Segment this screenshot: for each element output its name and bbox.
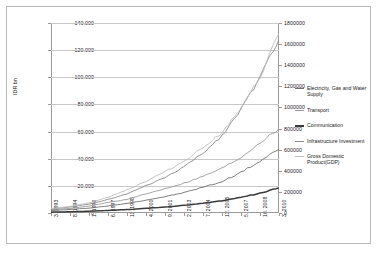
x-axis-tick xyxy=(146,213,147,216)
chart-legend: Electricity, Gas and Water SupplyTranspo… xyxy=(295,85,375,175)
x-axis-tick xyxy=(127,213,128,216)
x-axis-tick xyxy=(184,213,185,216)
right-y-axis-tick xyxy=(279,129,282,130)
x-axis-tick xyxy=(203,213,204,216)
series-line xyxy=(51,34,279,209)
legend-item[interactable]: Gross Domestic Product(GDP) xyxy=(295,153,375,166)
legend-label: Gross Domestic Product(GDP) xyxy=(307,153,375,166)
right-y-axis-tick xyxy=(279,171,282,172)
x-axis-tick xyxy=(165,213,166,216)
series-line xyxy=(51,129,279,210)
right-y-axis-tick xyxy=(279,23,282,24)
x-axis-tick-label: 3. 2010 xyxy=(281,200,287,217)
x-axis-tick xyxy=(260,213,261,216)
right-y-axis-tick-label: 200000 xyxy=(284,189,302,195)
legend-item[interactable]: Transport xyxy=(295,107,375,113)
legend-swatch-icon xyxy=(295,156,304,157)
legend-swatch-icon xyxy=(295,141,304,142)
series-line xyxy=(51,39,279,209)
chart-frame: IDR bn 020.00040.00060.00080.000100.0001… xyxy=(6,6,371,244)
right-y-axis-tick-label: 1600000 xyxy=(284,41,305,47)
legend-item[interactable]: Communication xyxy=(295,122,375,128)
x-axis-tick xyxy=(241,213,242,216)
right-y-axis-tick xyxy=(279,192,282,193)
legend-label: Infrastructure Investment xyxy=(307,138,364,144)
y-axis-title: IDR bn xyxy=(12,78,18,95)
plot-area xyxy=(51,23,279,213)
right-y-axis-tick xyxy=(279,86,282,87)
series-line xyxy=(51,149,279,210)
legend-swatch-icon xyxy=(295,88,304,89)
series-lines xyxy=(51,23,279,213)
legend-swatch-icon xyxy=(295,125,304,127)
x-axis-tick xyxy=(70,213,71,216)
x-axis-tick xyxy=(108,213,109,216)
right-y-axis-tick xyxy=(279,44,282,45)
legend-label: Transport xyxy=(307,107,329,113)
chart-screenshot: IDR bn 020.00040.00060.00080.000100.0001… xyxy=(0,0,385,256)
right-y-axis-tick-label: 1400000 xyxy=(284,62,305,68)
legend-item[interactable]: Electricity, Gas and Water Supply xyxy=(295,85,375,98)
x-axis-tick xyxy=(279,213,280,216)
legend-label: Electricity, Gas and Water Supply xyxy=(307,85,375,98)
x-axis-tick xyxy=(222,213,223,216)
legend-swatch-icon xyxy=(295,110,304,111)
x-axis-tick xyxy=(51,213,52,216)
right-y-axis-tick xyxy=(279,107,282,108)
right-y-axis-tick xyxy=(279,65,282,66)
right-y-axis-tick xyxy=(279,150,282,151)
x-axis-tick xyxy=(89,213,90,216)
legend-label: Communication xyxy=(307,122,343,128)
right-y-axis-tick-label: 1800000 xyxy=(284,20,305,26)
legend-item[interactable]: Infrastructure Investment xyxy=(295,138,375,144)
